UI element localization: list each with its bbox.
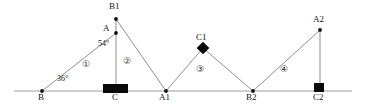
- region-label-1: ①: [82, 60, 90, 69]
- region-label-2: ②: [123, 57, 131, 66]
- vertex-label-b2: B2: [246, 93, 257, 102]
- diagram-canvas: B A B1 C A1 C1 B2 A2 C2 36° 54° ① ② ③ ④: [0, 0, 365, 111]
- region-label-4: ④: [280, 65, 288, 74]
- vertex-label-b: B: [38, 93, 44, 102]
- vertex-label-a2: A2: [313, 15, 324, 24]
- vertex-label-c1: C1: [196, 33, 207, 42]
- segment-b2-a2: [253, 30, 320, 91]
- region-label-3: ③: [196, 65, 204, 74]
- vertex-marker-b1: [114, 17, 118, 21]
- vertex-label-b1: B1: [109, 2, 120, 11]
- angle-label-36: 36°: [57, 75, 68, 83]
- diagram-svg: [0, 0, 365, 111]
- vertex-label-a1: A1: [159, 93, 170, 102]
- segment-b1-a1: [116, 19, 166, 91]
- angle-label-54: 54°: [98, 40, 109, 48]
- segment-c1-b2: [203, 48, 253, 91]
- square-marker-c2: [314, 83, 324, 92]
- vertex-label-c2: C2: [313, 93, 324, 102]
- vertex-label-a: A: [103, 24, 110, 33]
- vertex-marker-a: [114, 31, 118, 35]
- vertex-label-c: C: [112, 93, 118, 102]
- vertex-marker-a2: [318, 28, 322, 32]
